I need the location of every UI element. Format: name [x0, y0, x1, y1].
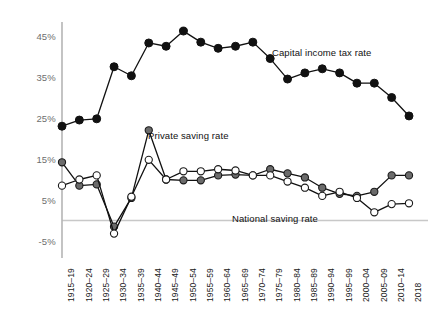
data-point [110, 230, 117, 237]
data-point [353, 79, 361, 87]
data-point [162, 42, 170, 50]
series-capital-income-tax-rate [58, 27, 413, 130]
data-point [301, 174, 308, 181]
series-annotation-label: Private saving rate [148, 130, 229, 141]
data-point [405, 200, 412, 207]
data-point [58, 182, 65, 189]
data-point [267, 172, 274, 179]
data-point [214, 44, 222, 52]
data-point [232, 167, 239, 174]
x-axis-tick-label: 1920–24 [84, 268, 94, 302]
data-point [284, 178, 291, 185]
data-point [93, 115, 101, 123]
x-axis-tick-label: 1995–99 [344, 268, 354, 302]
y-axis-tick-label: 15% [14, 154, 56, 165]
x-axis-tick-label: 1965–69 [240, 268, 250, 302]
data-point [388, 172, 395, 179]
x-axis-tick-label: 1955–59 [205, 268, 215, 302]
series-national-saving-rate [58, 156, 412, 237]
data-point [371, 209, 378, 216]
y-axis-tick-label: 25% [14, 113, 56, 124]
x-axis-tick-label: 1930–34 [118, 268, 128, 302]
y-axis-tick-label: 35% [14, 72, 56, 83]
x-axis-tick-label: 1980–84 [292, 268, 302, 302]
x-axis-tick-label: 2005–09 [379, 268, 389, 302]
data-point [163, 176, 170, 183]
data-point [388, 94, 396, 102]
x-axis-tick-label: 1990–94 [326, 268, 336, 302]
data-point [301, 184, 308, 191]
series-annotation-label: National saving rate [232, 213, 318, 224]
x-axis-tick-label: 1945–49 [170, 268, 180, 302]
data-point [301, 69, 309, 77]
data-point [371, 188, 378, 195]
chart-container: -5%5%15%25%35%45%1915–191920–241925–2919… [0, 0, 433, 311]
y-axis-tick-label: 5% [14, 195, 56, 206]
x-axis-tick-label: 2018 [413, 283, 423, 302]
data-point [336, 188, 343, 195]
data-point [318, 65, 326, 73]
data-point [370, 79, 378, 87]
data-point [319, 184, 326, 191]
x-axis-tick-label: 1915–19 [66, 268, 76, 302]
data-point [76, 176, 83, 183]
x-axis-tick-label: 2010–14 [396, 268, 406, 302]
data-point [336, 69, 344, 77]
data-point [128, 193, 135, 200]
x-axis-tick-label: 1975–79 [274, 268, 284, 302]
y-axis-tick-label: 45% [14, 31, 56, 42]
data-point [249, 38, 257, 46]
data-point [58, 159, 65, 166]
data-point [215, 166, 222, 173]
data-point [145, 39, 153, 47]
data-point [110, 63, 118, 71]
data-point [405, 112, 413, 120]
data-point [180, 177, 187, 184]
x-axis-tick-label: 1985–89 [309, 268, 319, 302]
x-axis-tick-label: 1935–39 [136, 268, 146, 302]
x-axis-tick-label: 1960–64 [222, 268, 232, 302]
x-axis-tick-label: 1950–54 [188, 268, 198, 302]
data-point [145, 156, 152, 163]
data-point [75, 116, 83, 124]
data-point [405, 172, 412, 179]
data-point [249, 172, 256, 179]
x-axis-tick-label: 1970–74 [257, 268, 267, 302]
x-axis-tick-label: 1940–44 [153, 268, 163, 302]
x-axis-tick-label: 1925–29 [101, 268, 111, 302]
series-annotation-label: Capital income tax rate [272, 47, 371, 58]
data-point [319, 192, 326, 199]
data-point [232, 42, 240, 50]
data-point [284, 75, 292, 83]
data-point [197, 177, 204, 184]
data-point [197, 168, 204, 175]
data-point [58, 122, 66, 130]
data-point [388, 201, 395, 208]
data-point [93, 172, 100, 179]
data-point [353, 194, 360, 201]
y-axis-tick-label: -5% [14, 236, 56, 247]
data-point [197, 38, 205, 46]
x-axis-tick-label: 2000–04 [361, 268, 371, 302]
data-point [179, 27, 187, 35]
data-point [180, 168, 187, 175]
data-point [284, 170, 291, 177]
data-point [127, 72, 135, 80]
